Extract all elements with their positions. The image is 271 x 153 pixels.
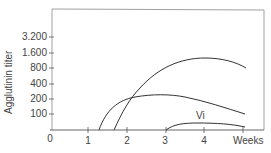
vi-annotation: Vi: [196, 111, 205, 121]
x-tick-4: 4: [194, 136, 214, 146]
y-tick-800: 800: [3, 63, 47, 73]
middle-curve: [99, 95, 245, 130]
chart-frame: [52, 9, 264, 130]
upper-curve: [114, 58, 246, 130]
x-tick-3: 3: [155, 136, 175, 146]
vi-curve: [166, 123, 245, 130]
x-tick-2: 2: [117, 136, 137, 146]
y-tick-1600: 1.600: [3, 48, 47, 58]
x-tick-0: 0: [40, 134, 60, 144]
y-axis-ticks: [49, 37, 54, 114]
x-tick-1: 1: [78, 136, 98, 146]
chart-plot-area: [0, 0, 271, 153]
y-tick-200: 200: [3, 94, 47, 104]
y-tick-100: 100: [3, 109, 47, 119]
x-axis-label: Weeks: [233, 136, 263, 146]
y-tick-3200: 3.200: [3, 32, 47, 42]
y-tick-400: 400: [3, 79, 47, 89]
